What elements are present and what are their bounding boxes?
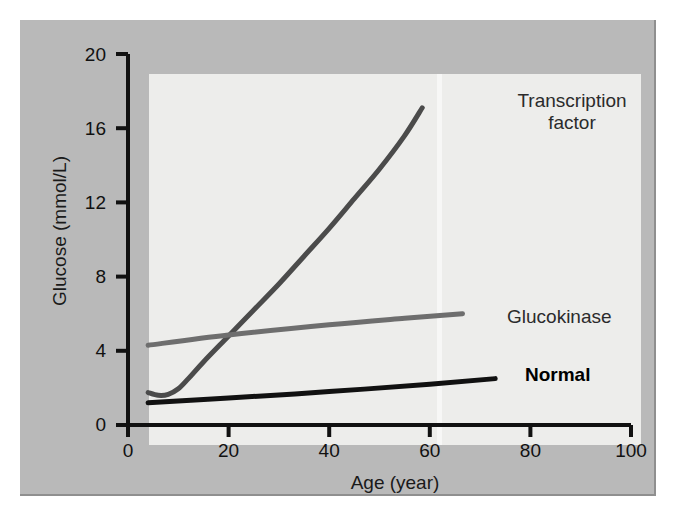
series-line-normal (148, 379, 495, 403)
data-series-group (148, 108, 495, 403)
y-tick-label-16: 16 (66, 118, 106, 140)
series-line-glucokinase (148, 314, 462, 346)
series-label-transcription-line1: Transcription (517, 90, 626, 111)
series-label-normal: Normal (525, 364, 590, 386)
series-label-transcription-line2: factor (548, 112, 596, 133)
x-tick-label-60: 60 (408, 440, 452, 462)
y-tick-label-8: 8 (66, 266, 106, 288)
series-line-transcription-factor (148, 108, 422, 396)
series-label-transcription-factor: Transcription factor (507, 90, 637, 134)
series-label-glucokinase: Glucokinase (507, 306, 612, 328)
y-tick-label-20: 20 (66, 44, 106, 66)
x-tick-label-40: 40 (307, 440, 351, 462)
y-tick-label-0: 0 (66, 414, 106, 436)
y-tick-label-4: 4 (66, 340, 106, 362)
x-axis-title: Age (year) (149, 472, 641, 494)
chart-page: 20 16 12 8 4 0 0 20 40 60 80 100 Glucose… (0, 0, 676, 515)
x-tick-label-100: 100 (609, 440, 653, 462)
x-tick-label-0: 0 (106, 440, 150, 462)
x-tick-label-80: 80 (508, 440, 552, 462)
y-axis-title: Glucose (mmol/L) (49, 131, 71, 331)
x-tick-label-20: 20 (207, 440, 251, 462)
y-tick-label-12: 12 (66, 192, 106, 214)
figure-panel: 20 16 12 8 4 0 0 20 40 60 80 100 Glucose… (20, 20, 656, 496)
